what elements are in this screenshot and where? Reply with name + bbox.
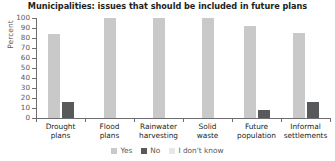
x-axis-category-line: population bbox=[232, 131, 281, 140]
legend-swatch-icon bbox=[169, 148, 175, 154]
y-axis-tick-label: 50 bbox=[21, 64, 30, 71]
x-axis-tick-mark bbox=[330, 118, 331, 122]
legend-label: No bbox=[150, 147, 160, 155]
x-axis-category-label: Rainwaterharvesting bbox=[134, 122, 183, 140]
bar-group bbox=[232, 18, 281, 118]
bar-group bbox=[183, 18, 232, 118]
bar bbox=[307, 102, 319, 118]
bar bbox=[244, 26, 256, 118]
y-axis-tick-label: 100 bbox=[16, 14, 30, 21]
y-axis-tick-label: 70 bbox=[21, 44, 30, 51]
x-axis-category-line: settlements bbox=[281, 131, 330, 140]
y-axis-tick-label: 80 bbox=[21, 34, 30, 41]
legend-label: I don't know bbox=[178, 147, 223, 155]
y-axis-tick-label: 30 bbox=[21, 84, 30, 91]
bar bbox=[104, 18, 116, 118]
y-axis-tick-label: 40 bbox=[21, 74, 30, 81]
x-axis-category-line: plans bbox=[85, 131, 134, 140]
x-axis-category-line: Informal bbox=[281, 122, 330, 131]
legend-swatch-icon bbox=[111, 148, 117, 154]
legend-label: Yes bbox=[120, 147, 132, 155]
x-axis-category-label: Floodplans bbox=[85, 122, 134, 140]
x-axis-category-line: waste bbox=[183, 131, 232, 140]
x-axis-category-line: Future bbox=[232, 122, 281, 131]
bar bbox=[202, 18, 214, 118]
x-axis-category-line: Rainwater bbox=[134, 122, 183, 131]
x-axis-tick-mark bbox=[134, 118, 135, 122]
y-axis-tick-label: 10 bbox=[21, 104, 30, 111]
bar-chart: Municipalities: issues that should be in… bbox=[0, 0, 335, 161]
bar-group bbox=[36, 18, 85, 118]
bar-group bbox=[85, 18, 134, 118]
y-axis-label: Percent bbox=[6, 5, 15, 65]
legend-swatch-icon bbox=[141, 148, 147, 154]
legend-item[interactable]: I don't know bbox=[169, 147, 223, 155]
chart-title: Municipalities: issues that should be in… bbox=[0, 1, 335, 11]
bar bbox=[258, 110, 270, 118]
x-axis-category-label: Informalsettlements bbox=[281, 122, 330, 140]
legend-item[interactable]: No bbox=[141, 147, 160, 155]
x-axis-tick-mark bbox=[36, 118, 37, 122]
x-axis-tick-mark bbox=[183, 118, 184, 122]
bar-group bbox=[281, 18, 330, 118]
x-axis-tick-mark bbox=[85, 118, 86, 122]
y-axis-tick-label: 0 bbox=[25, 114, 30, 121]
x-axis-tick-mark bbox=[281, 118, 282, 122]
x-axis-category-line: Drought bbox=[36, 122, 85, 131]
x-axis-category-line: Solid bbox=[183, 122, 232, 131]
x-axis-category-line: plans bbox=[36, 131, 85, 140]
bar bbox=[153, 18, 165, 118]
x-axis-category-label: Solidwaste bbox=[183, 122, 232, 140]
x-axis-category-line: Flood bbox=[85, 122, 134, 131]
y-axis-tick-label: 90 bbox=[21, 24, 30, 31]
bar bbox=[62, 102, 74, 118]
x-axis-category-line: harvesting bbox=[134, 131, 183, 140]
chart-legend: YesNoI don't know bbox=[0, 147, 335, 155]
plot-area bbox=[36, 18, 330, 118]
y-axis-tick-label: 60 bbox=[21, 54, 30, 61]
x-axis-tick-mark bbox=[232, 118, 233, 122]
x-axis-category-label: Futurepopulation bbox=[232, 122, 281, 140]
bar-group bbox=[134, 18, 183, 118]
legend-item[interactable]: Yes bbox=[111, 147, 132, 155]
bar bbox=[293, 33, 305, 118]
x-axis-category-label: Droughtplans bbox=[36, 122, 85, 140]
bar bbox=[48, 34, 60, 118]
y-axis-tick-label: 20 bbox=[21, 94, 30, 101]
